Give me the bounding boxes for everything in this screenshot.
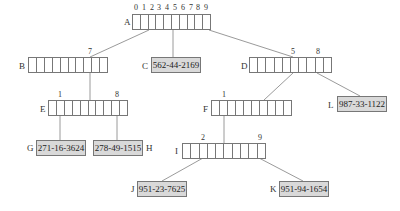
edge-a-d <box>209 30 293 57</box>
node-a-array <box>132 14 211 30</box>
node-j-label: J <box>131 184 135 194</box>
leaf-h-record: 278-49-1515 <box>93 140 143 156</box>
node-a-index-0: 0 <box>134 4 138 12</box>
node-b-array <box>28 57 108 73</box>
node-f-index-1: 1 <box>222 91 226 99</box>
node-d-array <box>249 57 332 73</box>
leaf-l-record: 987-33-1122 <box>337 96 387 112</box>
node-i-array <box>182 143 266 159</box>
node-e-label: E <box>40 104 46 114</box>
node-k-label: K <box>270 184 277 194</box>
node-i-label: I <box>175 146 178 156</box>
node-g-label: G <box>27 143 34 153</box>
node-h-label: H <box>146 143 153 153</box>
edge-a-b <box>90 30 149 57</box>
leaf-j-record: 951-23-7625 <box>137 181 187 197</box>
node-b-index-7: 7 <box>88 48 92 56</box>
node-d-index-5: 5 <box>291 48 295 56</box>
node-a-index-2: 2 <box>150 4 154 12</box>
edge-i-j <box>162 158 203 181</box>
node-a-index-8: 8 <box>196 4 200 12</box>
node-f-array <box>211 100 292 116</box>
leaf-k-record: 951-94-1654 <box>279 181 329 197</box>
node-e-array <box>48 100 128 116</box>
edge-d-l <box>317 73 360 96</box>
node-d-index-8: 8 <box>316 48 320 56</box>
node-a-index-3: 3 <box>157 4 161 12</box>
node-i-index-9: 9 <box>258 134 262 142</box>
node-a-label: A <box>124 17 131 27</box>
node-b-label: B <box>19 61 25 71</box>
trie-diagram: A 0 1 2 3 4 5 6 7 8 9 B 7 C 562-44-2169 … <box>0 0 400 211</box>
node-a-index-1: 1 <box>142 4 146 12</box>
node-d-label: D <box>241 61 248 71</box>
node-c-label: C <box>142 61 148 71</box>
node-a-index-4: 4 <box>165 4 169 12</box>
node-a-index-5: 5 <box>173 4 177 12</box>
node-a-index-6: 6 <box>181 4 185 12</box>
node-e-index-1: 1 <box>58 91 62 99</box>
node-a-index-7: 7 <box>189 4 193 12</box>
node-f-label: F <box>203 104 208 114</box>
leaf-g-record: 271-16-3624 <box>36 140 86 156</box>
edge-d-f <box>264 73 293 100</box>
edge-i-k <box>259 158 303 181</box>
node-i-index-2: 2 <box>201 134 205 142</box>
node-e-index-8: 8 <box>115 91 119 99</box>
node-l-label: L <box>328 100 334 110</box>
leaf-c-record: 562-44-2169 <box>151 57 201 73</box>
node-a-index-9: 9 <box>204 4 208 12</box>
